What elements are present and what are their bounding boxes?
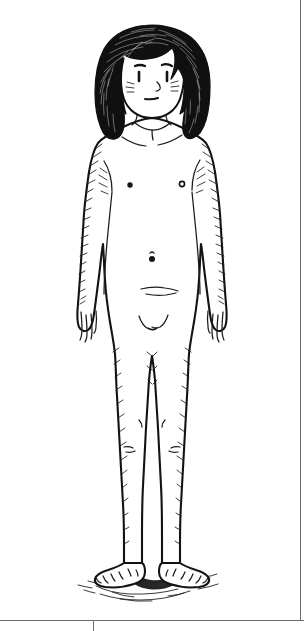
bottom-horizontal-rule	[0, 620, 304, 621]
column-divider-tick	[93, 621, 94, 631]
left-foot	[95, 563, 145, 587]
left-eyebrow	[135, 65, 145, 66]
right-foot	[159, 563, 209, 587]
page-canvas: Black and white ink drawing of a person …	[0, 0, 304, 631]
left-nipple	[127, 182, 132, 187]
right-vertical-rule	[300, 0, 301, 621]
body-outline	[77, 118, 226, 566]
standing-figure-illustration: Black and white ink drawing of a person …	[0, 0, 304, 631]
